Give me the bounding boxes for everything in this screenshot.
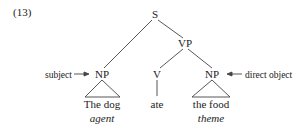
node-vp: VP	[178, 38, 192, 49]
triangle-subject-np	[85, 80, 120, 97]
node-v: V	[153, 69, 161, 80]
example-number: (13)	[13, 7, 31, 18]
branch-vp-np	[188, 49, 212, 68]
direct-object-label: direct object	[245, 70, 292, 81]
branch-vp-v	[160, 49, 183, 68]
subject-label: subject	[45, 70, 72, 81]
node-s: S	[152, 9, 158, 20]
object-words: the food	[193, 99, 229, 110]
object-role: theme	[198, 113, 224, 124]
branch-s-np	[104, 20, 152, 68]
triangle-object-np	[192, 80, 230, 97]
branch-s-vp	[158, 20, 183, 38]
node-subject-np: NP	[95, 69, 109, 80]
verb-word: ate	[151, 99, 164, 110]
subject-role: agent	[90, 113, 114, 124]
subject-words: The dog	[84, 99, 120, 110]
node-object-np: NP	[205, 69, 219, 80]
